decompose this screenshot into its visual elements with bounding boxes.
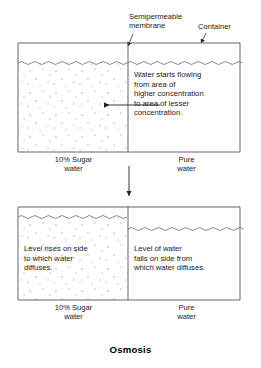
bottom-left-caption: Level rises on side to which water diffu… xyxy=(24,244,124,273)
container-label: Container xyxy=(198,22,231,31)
top-right-compartment-label: Pure water xyxy=(139,155,234,173)
container-leader-line xyxy=(201,33,206,43)
bottom-right-compartment-label: Pure water xyxy=(139,303,234,321)
osmosis-diagram: Semipermeable membrane Container Water s… xyxy=(0,0,261,368)
membrane-leader-line xyxy=(128,34,133,46)
diagram-title: Osmosis xyxy=(0,344,261,355)
top-left-solute-fill xyxy=(19,63,129,152)
bottom-right-water-surface xyxy=(128,228,244,231)
top-vessel-caption: Water starts flowing from area of higher… xyxy=(134,70,238,118)
top-left-compartment-label: 10% Sugar water xyxy=(26,155,121,173)
semipermeable-membrane-label: Semipermeable membrane xyxy=(129,12,182,30)
bottom-left-compartment-label: 10% Sugar water xyxy=(26,303,121,321)
bottom-right-caption: Level of water falls on side from which … xyxy=(134,244,238,273)
